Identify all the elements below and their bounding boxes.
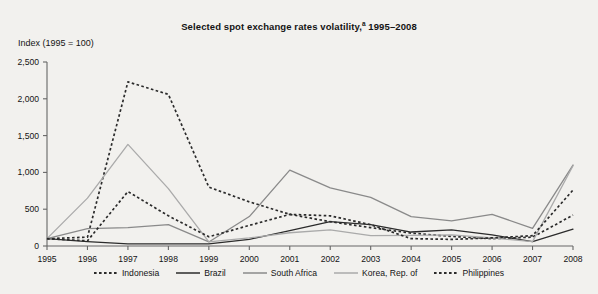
x-tick-label: 2002 [321,254,340,264]
series-line-south-africa [47,165,573,242]
legend-swatch-dotted-line-icon [434,269,458,277]
legend-swatch-solid-line-icon [334,269,358,277]
x-tick-label: 2003 [361,254,380,264]
x-tick-label: 1998 [159,254,178,264]
legend-item-indonesia[interactable]: Indonesia [94,269,159,278]
y-tick-label: 0 [34,241,39,251]
legend-item-south-africa[interactable]: South Africa [243,269,317,278]
legend-item-korea-rep-of[interactable]: Korea, Rep. of [334,269,417,278]
y-tick-label: 500 [25,204,40,214]
legend-item-brazil[interactable]: Brazil [176,269,226,278]
y-tick-label: 2,500 [17,57,39,67]
x-tick-label: 2007 [523,254,542,264]
legend-swatch-dotted-line-icon [94,269,118,277]
y-tick-label: 1,500 [17,131,39,141]
y-tick-label: 2,000 [17,94,39,104]
x-tick-label: 2005 [442,254,461,264]
x-tick-label: 2001 [280,254,299,264]
y-tick-label: 1,000 [17,167,39,177]
series-line-brazil [47,222,573,244]
legend-label: South Africa [271,269,317,278]
x-tick-label: 2004 [402,254,421,264]
legend-item-philippines[interactable]: Philippines [434,269,504,278]
legend-swatch-solid-line-icon [243,269,267,277]
legend-swatch-solid-line-icon [176,269,200,277]
x-tick-label: 1995 [37,254,56,264]
x-tick-label: 2000 [240,254,259,264]
legend-label: Korea, Rep. of [362,269,417,278]
x-tick-label: 1996 [78,254,97,264]
legend-label: Indonesia [122,269,159,278]
legend-label: Philippines [462,269,504,278]
chart-legend: IndonesiaBrazilSouth AfricaKorea, Rep. o… [0,269,598,278]
legend-label: Brazil [204,269,226,278]
data-series-group [47,82,573,244]
x-tick-label: 2006 [483,254,502,264]
chart-screenshot: Selected spot exchange rates volatility,… [0,0,598,294]
y-axis-tick-group: 05001,0001,5002,0002,500 [17,57,47,251]
x-tick-label: 1997 [118,254,137,264]
x-axis-tick-group: 1995199619971998199920002001200220032004… [37,246,582,264]
plot-area: 05001,0001,5002,0002,500 199519961997199… [0,0,598,294]
x-tick-label: 1999 [199,254,218,264]
chart-canvas: 05001,0001,5002,0002,500 199519961997199… [0,0,598,294]
x-tick-label: 2008 [563,254,582,264]
